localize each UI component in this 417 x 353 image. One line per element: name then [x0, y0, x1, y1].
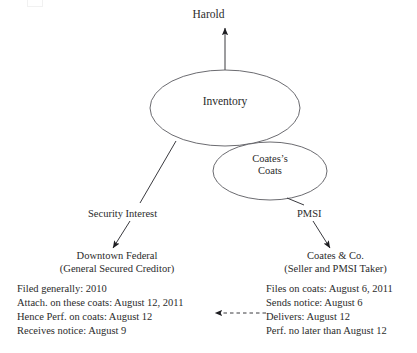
- fact-line: Perf. no later than August 12: [266, 324, 417, 338]
- fact-line: Files on coats: August 6, 2011: [266, 282, 417, 296]
- party-name-coates-and-co: Coates & Co.: [263, 249, 408, 262]
- edge-pmsi-upper: [287, 198, 304, 205]
- node-label-coates-coats-line2: Coats: [213, 165, 327, 177]
- fact-line: Hence Perf. on coats: August 12: [17, 310, 217, 324]
- party-facts-coates-and-co: Files on coats: August 6, 2011 Sends not…: [266, 282, 417, 338]
- edge-pmsi-lower: [313, 221, 330, 248]
- party-facts-downtown-federal: Filed generally: 2010 Attach. on these c…: [17, 282, 217, 338]
- edge-label-pmsi: PMSI: [297, 208, 322, 220]
- fact-line: Receives notice: August 9: [17, 324, 217, 338]
- fact-line: Attach. on these coats: August 12, 2011: [17, 296, 217, 310]
- fact-line: Filed generally: 2010: [17, 282, 217, 296]
- party-block-downtown-federal: Downtown Federal (General Secured Credit…: [17, 249, 217, 338]
- edge-security-interest-upper: [140, 141, 176, 203]
- party-heading-coates-and-co: Coates & Co. (Seller and PMSI Taker): [263, 249, 408, 276]
- party-heading-downtown-federal: Downtown Federal (General Secured Credit…: [17, 249, 217, 276]
- node-label-coates-coats-line1: Coates’s: [213, 153, 327, 165]
- party-role-coates-and-co: (Seller and PMSI Taker): [263, 262, 408, 275]
- party-role-downtown-federal: (General Secured Creditor): [17, 262, 217, 275]
- node-label-inventory: Inventory: [150, 95, 300, 109]
- diagram-canvas: Harold Inventory Coates’s Coats Security…: [0, 0, 417, 353]
- edge-security-interest-lower: [113, 221, 130, 248]
- edge-label-security-interest: Security Interest: [88, 208, 157, 220]
- fact-line: Sends notice: August 6: [266, 296, 417, 310]
- node-label-harold: Harold: [0, 8, 417, 22]
- node-label-coates-coats: Coates’s Coats: [213, 153, 327, 178]
- party-block-coates-and-co: Coates & Co. (Seller and PMSI Taker) Fil…: [266, 249, 417, 338]
- fact-line: Delivers: August 12: [266, 310, 417, 324]
- party-name-downtown-federal: Downtown Federal: [17, 249, 217, 262]
